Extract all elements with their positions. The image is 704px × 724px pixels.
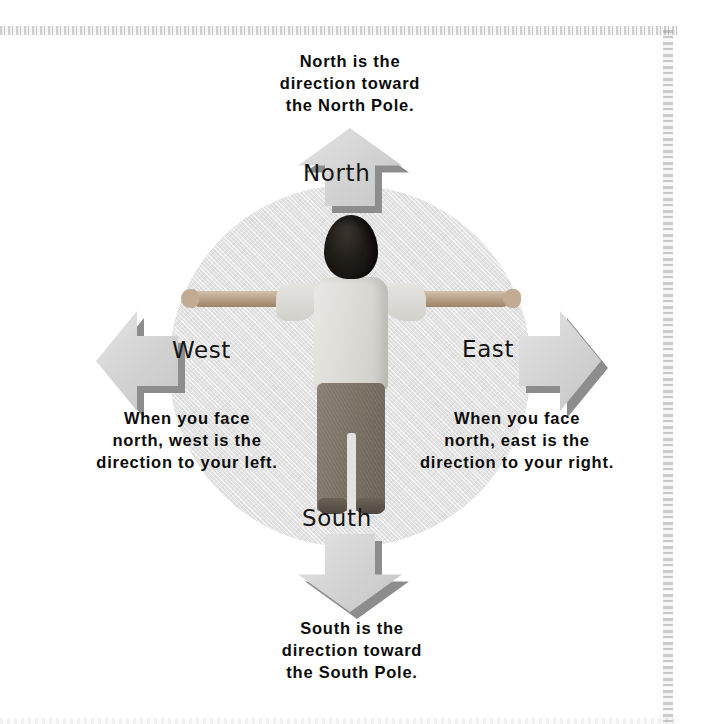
arrow-down-body (298, 534, 402, 612)
direction-label-south: South (302, 505, 372, 531)
arrow-right-body (519, 311, 601, 411)
child-left-arm (192, 291, 284, 307)
child-right-sleeve (382, 283, 426, 321)
south-caption: South is the direction toward the South … (234, 617, 470, 683)
page-edge-bottom (0, 718, 678, 724)
child-right-arm (418, 291, 510, 307)
child-left-hand (181, 289, 199, 308)
child-head (324, 215, 378, 279)
child-tshirt (314, 277, 388, 390)
direction-label-north: North (303, 160, 370, 186)
arrow-right-icon (519, 311, 601, 411)
arrow-left-icon (96, 311, 178, 411)
page-edge-top (0, 26, 678, 35)
arrow-down-icon (298, 534, 402, 612)
page-edge-right (663, 30, 673, 724)
child-photo (190, 215, 510, 515)
arrow-left-body (96, 311, 178, 411)
child-leg-gap (347, 433, 356, 515)
north-caption: North is the direction toward the North … (232, 50, 468, 116)
child-right-hand (503, 289, 521, 308)
